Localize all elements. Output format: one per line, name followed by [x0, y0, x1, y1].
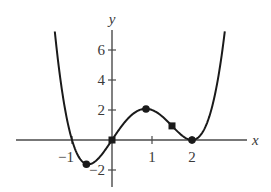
circle-marker	[188, 136, 196, 144]
function-curve	[55, 31, 225, 164]
x-tick-label: −1	[58, 149, 74, 165]
y-tick-label: 6	[98, 42, 106, 58]
chart: −112 642−2 x y	[0, 0, 271, 192]
x-axis-label: x	[251, 132, 259, 148]
axes: −112 642−2 x y	[16, 11, 259, 187]
y-tick-label: 2	[98, 102, 106, 118]
x-tick-label: 1	[148, 149, 156, 165]
y-axis-label: y	[107, 11, 116, 27]
circle-marker	[142, 105, 150, 113]
square-marker	[109, 137, 116, 144]
x-tick-label: 2	[188, 149, 196, 165]
circle-marker	[83, 161, 91, 169]
y-tick-label: 4	[98, 72, 106, 88]
square-marker	[169, 122, 176, 129]
